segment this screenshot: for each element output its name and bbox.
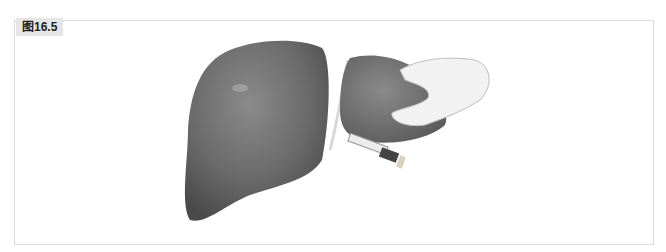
- liver-left-lobe: [185, 41, 329, 221]
- liver-illustration: [0, 0, 666, 252]
